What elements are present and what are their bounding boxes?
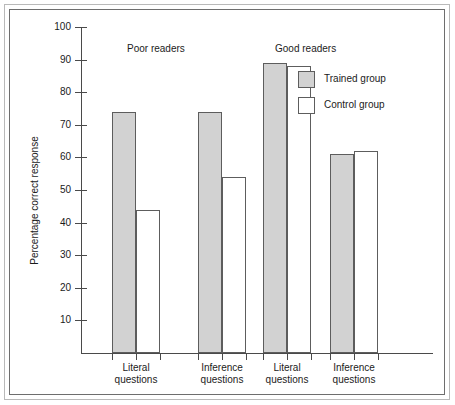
y-axis-tick-label: 40 <box>41 218 71 228</box>
y-axis-tick-label: 20 <box>41 283 71 293</box>
category-label-line1: Literal <box>93 362 179 374</box>
bar-trained <box>198 112 222 353</box>
bar-control <box>222 177 246 353</box>
y-axis-title: Percentage correct response <box>29 131 40 271</box>
plot-area: Percentage correct response 100908070605… <box>0 0 455 405</box>
x-axis-tick <box>160 354 161 360</box>
y-axis-tick-label: 70 <box>41 120 71 130</box>
x-axis-tick <box>287 354 288 360</box>
x-axis-tick <box>136 354 137 360</box>
y-axis-tick-label: 50 <box>41 185 71 195</box>
bar-control <box>354 151 378 353</box>
x-axis-tick <box>112 354 113 360</box>
x-axis-tick <box>263 354 264 360</box>
x-axis-line <box>81 353 433 354</box>
bar-trained <box>330 154 354 353</box>
legend-label: Trained group <box>324 73 386 85</box>
x-axis-tick <box>354 354 355 360</box>
group-header-good-readers: Good readers <box>275 43 336 54</box>
y-axis-tick-label: 90 <box>41 55 71 65</box>
category-label-line2: questions <box>93 374 179 386</box>
legend-swatch-control <box>298 97 315 114</box>
group-header-poor-readers: Poor readers <box>127 43 185 54</box>
x-axis-tick <box>246 354 247 360</box>
y-axis-line <box>81 27 82 353</box>
y-axis-tick-label: 10 <box>41 315 71 325</box>
legend-label: Control group <box>324 99 385 111</box>
category-label-line1: Inference <box>311 362 397 374</box>
legend-swatch-trained <box>298 71 315 88</box>
x-axis-tick <box>222 354 223 360</box>
y-axis-tick-label: 30 <box>41 250 71 260</box>
x-axis-tick <box>198 354 199 360</box>
figure-root: Percentage correct response 100908070605… <box>0 0 455 405</box>
y-axis-tick-label: 60 <box>41 152 71 162</box>
y-axis-tick-label: 100 <box>41 22 71 32</box>
bar-trained <box>263 63 287 353</box>
y-axis-tick-label: 80 <box>41 87 71 97</box>
bar-trained <box>112 112 136 353</box>
bar-control <box>136 210 160 353</box>
x-axis-tick <box>330 354 331 360</box>
x-axis-tick <box>311 354 312 360</box>
x-axis-category-label: Literalquestions <box>93 362 179 386</box>
category-label-line2: questions <box>311 374 397 386</box>
x-axis-category-label: Inferencequestions <box>311 362 397 386</box>
x-axis-tick <box>378 354 379 360</box>
